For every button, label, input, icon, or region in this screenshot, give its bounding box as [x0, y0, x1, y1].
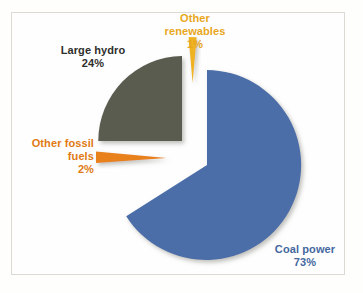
- pie-chart-screenshot: Large hydro 24% Other renewables 1% Othe…: [0, 0, 363, 293]
- slice-label-other-renewables-name-line2: renewables: [152, 25, 238, 38]
- pie-chart-plot-area: Large hydro 24% Other renewables 1% Othe…: [0, 0, 363, 293]
- slice-label-other-fossil-fuels-name-line1: Other fossil: [32, 137, 94, 149]
- slice-label-other-fossil-fuels-percent: 2%: [6, 163, 94, 176]
- slice-label-other-renewables-percent: 1%: [152, 38, 238, 51]
- slice-label-other-fossil-fuels: Other fossil fuels 2%: [6, 137, 94, 176]
- slice-label-large-hydro-percent: 24%: [44, 57, 142, 70]
- slice-label-large-hydro: Large hydro 24%: [44, 44, 142, 70]
- pie-slice-other-fossil-fuels: [96, 151, 167, 163]
- slice-label-coal-power-name: Coal power: [275, 243, 335, 255]
- slice-label-coal-power: Coal power 73%: [258, 243, 352, 269]
- slice-label-other-renewables: Other renewables 1%: [152, 12, 238, 51]
- slice-label-large-hydro-name: Large hydro: [61, 44, 126, 56]
- slice-label-coal-power-percent: 73%: [258, 256, 352, 269]
- slice-label-other-renewables-name-line1: Other: [180, 12, 210, 24]
- slice-label-other-fossil-fuels-name-line2: fuels: [6, 150, 94, 163]
